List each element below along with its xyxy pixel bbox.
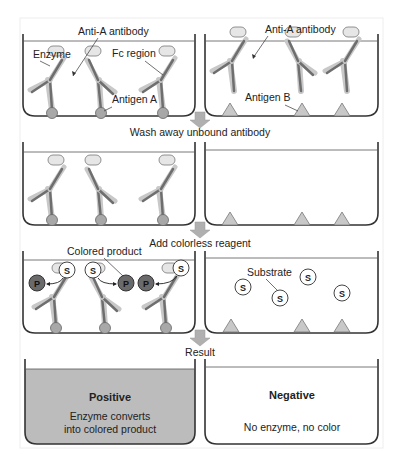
label-antigen-a: Antigen A (112, 93, 157, 105)
svg-text:P: P (34, 279, 40, 289)
row4-positive-well: Positive Enzyme converts into colored pr… (25, 359, 195, 444)
label-colored-product: Colored product (67, 245, 142, 257)
svg-text:S: S (90, 266, 96, 276)
step-wash-label: Wash away unbound antibody (130, 126, 271, 138)
step-result-label: Result (185, 346, 215, 358)
negative-title: Negative (269, 389, 315, 401)
svg-text:S: S (240, 283, 246, 293)
svg-text:S: S (178, 264, 184, 274)
step-add-reagent-label: Add colorless reagent (149, 237, 251, 249)
svg-text:S: S (64, 266, 70, 276)
svg-text:P: P (143, 279, 149, 289)
svg-text:S: S (305, 273, 311, 283)
svg-text:S: S (339, 289, 345, 299)
label-fc-region: Fc region (112, 47, 156, 59)
label-anti-a-antibody-right: Anti-A antibody (265, 23, 336, 35)
negative-line1: No enzyme, no color (244, 421, 341, 433)
label-substrate: Substrate (247, 266, 292, 278)
elisa-diagram: Anti-A antibody Enzyme Fc region Antigen… (0, 0, 396, 463)
label-antigen-b: Antigen B (245, 91, 291, 103)
positive-title: Positive (89, 391, 131, 403)
svg-text:S: S (277, 294, 283, 304)
positive-line2: into colored product (64, 423, 156, 435)
svg-text:P: P (123, 279, 129, 289)
label-anti-a-antibody-left: Anti-A antibody (78, 25, 149, 37)
label-enzyme: Enzyme (33, 48, 71, 60)
positive-line1: Enzyme converts (70, 410, 151, 422)
